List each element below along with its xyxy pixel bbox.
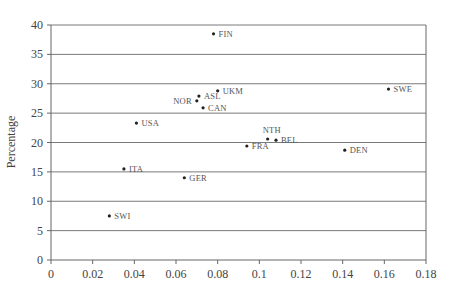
x-tick-label: 0.14: [332, 267, 353, 281]
data-point-fin: FIN: [212, 29, 233, 39]
x-axis-ticks: 00.020.040.060.080.10.120.140.160.18: [48, 267, 437, 281]
point-label: SWE: [394, 84, 413, 94]
point-label: CAN: [208, 103, 227, 113]
x-tick-label: 0.08: [207, 267, 228, 281]
y-tick-label: 10: [31, 194, 43, 208]
point-marker: [343, 149, 346, 152]
point-label: USA: [141, 118, 159, 128]
data-point-ita: ITA: [122, 164, 143, 174]
point-label: FIN: [219, 29, 233, 39]
y-tick-label: 40: [31, 18, 43, 32]
x-tick-label: 0.06: [166, 267, 187, 281]
y-tick-label: 15: [31, 165, 43, 179]
point-label: UKM: [223, 86, 244, 96]
y-tick-label: 20: [31, 136, 43, 150]
x-tick-label: 0.1: [252, 267, 267, 281]
x-tick-label: 0.18: [416, 267, 437, 281]
point-label: ASL: [204, 91, 221, 101]
point-label: DEN: [350, 145, 368, 155]
y-axis-ticks: 0510152025303540: [31, 18, 43, 267]
y-tick-label: 25: [31, 106, 43, 120]
data-point-swe: SWE: [387, 84, 412, 94]
data-point-ger: GER: [183, 173, 207, 183]
x-tick-label: 0: [48, 267, 54, 281]
point-marker: [274, 139, 277, 142]
data-point-usa: USA: [135, 118, 160, 128]
x-tick-label: 0.02: [82, 267, 103, 281]
data-point-asl: ASL: [197, 91, 220, 101]
x-tick-label: 0.12: [291, 267, 312, 281]
y-tick-label: 0: [37, 253, 43, 267]
point-marker: [387, 87, 390, 90]
x-tick-label: 0.16: [374, 267, 395, 281]
point-marker: [245, 144, 248, 147]
data-point-can: CAN: [201, 103, 226, 113]
point-marker: [201, 106, 204, 109]
scatter-chart: 0510152025303540 00.020.040.060.080.10.1…: [0, 0, 452, 289]
point-marker: [212, 32, 215, 35]
data-point-swi: SWI: [108, 211, 131, 221]
data-points: FINUKMASLNORCANSWEUSANTHBELFRADENITAGERS…: [108, 29, 412, 221]
gridlines: [51, 25, 426, 231]
y-tick-label: 30: [31, 77, 43, 91]
point-label: SWI: [114, 211, 130, 221]
point-marker: [122, 167, 125, 170]
y-axis-label: Percentage: [4, 116, 18, 169]
point-label: FRA: [252, 141, 270, 151]
point-label: BEL: [281, 135, 298, 145]
point-marker: [108, 214, 111, 217]
point-marker: [135, 122, 138, 125]
y-tick-label: 35: [31, 47, 43, 61]
data-point-nth: NTH: [263, 125, 281, 141]
point-label: NTH: [263, 125, 281, 135]
data-point-bel: BEL: [274, 135, 297, 145]
point-label: ITA: [129, 164, 144, 174]
point-label: GER: [189, 173, 207, 183]
data-point-den: DEN: [343, 145, 368, 155]
axes: [47, 25, 426, 264]
y-tick-label: 5: [37, 224, 43, 238]
point-label: NOR: [173, 96, 192, 106]
x-tick-label: 0.04: [124, 267, 145, 281]
point-marker: [183, 176, 186, 179]
data-point-nor: NOR: [173, 96, 198, 106]
point-marker: [195, 99, 198, 102]
point-marker: [197, 94, 200, 97]
